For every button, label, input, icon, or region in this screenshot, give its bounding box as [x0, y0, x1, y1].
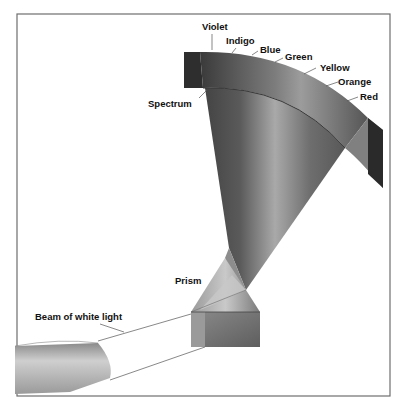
label-spectrum: Spectrum: [148, 98, 192, 109]
label-violet: Violet: [202, 21, 229, 32]
label-beam: Beam of white light: [35, 311, 123, 322]
label-prism: Prism: [175, 275, 201, 286]
label-yellow: Yellow: [320, 62, 350, 73]
label-green: Green: [285, 51, 313, 62]
prism-diagram: Violet Indigo Blue Green Yellow Orange R…: [0, 0, 403, 411]
label-indigo: Indigo: [226, 35, 255, 46]
screen-left-edge: [184, 52, 203, 88]
label-blue: Blue: [260, 44, 281, 55]
label-orange: Orange: [338, 76, 371, 87]
label-red: Red: [360, 91, 378, 102]
